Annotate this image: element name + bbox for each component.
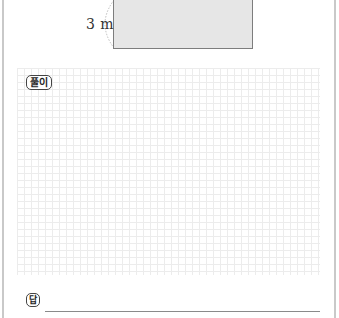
height-dimension-label: 3 m [86,16,114,32]
solution-badge: 풀이 [26,75,52,90]
answer-input-line[interactable] [45,311,320,312]
answer-badge: 답 [26,293,40,307]
rectangle-figure: 3 m [0,0,339,55]
rectangle-shape [113,0,253,49]
solution-grid-area[interactable] [17,68,320,275]
